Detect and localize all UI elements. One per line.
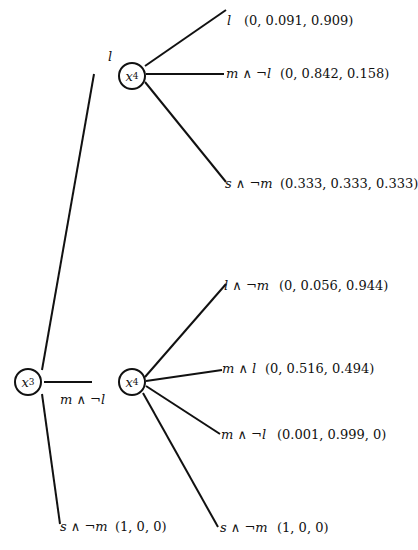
leaf-label: m ∧ ¬l (221, 428, 266, 442)
edge-lower-s-not-m (143, 393, 218, 527)
edge-root-s-not-m (42, 394, 60, 524)
leaf-value: (0, 0.842, 0.158) (280, 67, 389, 81)
edge-lower-m-not-l (146, 386, 220, 434)
root-node-x3: x3 (14, 368, 42, 396)
leaf-value: (0.333, 0.333, 0.333) (280, 177, 418, 191)
leaf-label: s ∧ ¬m (220, 521, 268, 535)
upper-node-name: x (125, 69, 132, 84)
edge-lower-m-and-l (146, 370, 222, 381)
leaf-label: m ∧ ¬l (226, 67, 271, 81)
edge-upper-l (145, 10, 226, 66)
leaf-label: l (227, 14, 231, 28)
leaf-label: s ∧ ¬m (225, 177, 273, 191)
edge-label-upper: l (108, 50, 112, 64)
lower-node-sub: 4 (133, 377, 139, 387)
leaf-label: l ∧ ¬m (224, 279, 269, 293)
root-leaf-value: (1, 0, 0) (115, 520, 167, 534)
leaf-value: (0, 0.091, 0.909) (244, 14, 353, 28)
leaf-value: (1, 0, 0) (277, 521, 329, 535)
leaf-value: (0, 0.056, 0.944) (279, 279, 388, 293)
lower-node-name: x (125, 375, 132, 390)
root-node-sub: 3 (29, 377, 35, 387)
root-node-name: x (21, 375, 28, 390)
upper-node-sub: 4 (133, 71, 139, 81)
root-leaf-label: s ∧ ¬m (60, 520, 108, 534)
upper-node-x4: x4 (118, 62, 146, 90)
lower-node-x4: x4 (118, 368, 146, 396)
edge-root-l (42, 74, 94, 370)
edge-upper-s-not-m (145, 82, 226, 182)
edge-label-lower: m ∧ ¬l (60, 393, 105, 407)
leaf-label: m ∧ l (222, 362, 256, 376)
edge-lower-l-not-m (145, 284, 226, 377)
leaf-value: (0, 0.516, 0.494) (265, 362, 374, 376)
leaf-value: (0.001, 0.999, 0) (277, 428, 386, 442)
